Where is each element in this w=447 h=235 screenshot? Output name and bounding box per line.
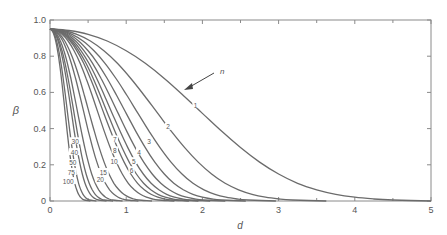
curve-label-n-3: 3 bbox=[147, 138, 151, 145]
x-tick-label: 2 bbox=[200, 205, 205, 215]
curve-label-n-50: 50 bbox=[69, 159, 77, 166]
curve-label-n-20: 20 bbox=[97, 176, 105, 183]
curve-label-n-40: 40 bbox=[71, 149, 79, 156]
arrow-head-icon bbox=[184, 83, 193, 90]
curve-label-n-7: 7 bbox=[113, 136, 117, 143]
curve-label-n-100: 100 bbox=[63, 178, 74, 185]
curve-label-n-1: 1 bbox=[194, 102, 198, 109]
curve-label-n-4: 4 bbox=[137, 149, 141, 156]
y-tick-label: 0.4 bbox=[33, 124, 46, 134]
y-tick-label: 0.2 bbox=[33, 160, 46, 170]
x-tick-label: 4 bbox=[352, 205, 357, 215]
curve-label-n-8: 8 bbox=[113, 147, 117, 154]
curve-label-n-6: 6 bbox=[130, 167, 134, 174]
x-axis-label: d bbox=[237, 220, 243, 231]
y-tick-label: 0.6 bbox=[33, 87, 46, 97]
curve-label-n-10: 10 bbox=[110, 158, 118, 165]
curve-label-n-15: 15 bbox=[100, 169, 108, 176]
y-tick-label: 0 bbox=[41, 196, 46, 206]
x-tick-label: 3 bbox=[276, 205, 281, 215]
curve-series bbox=[50, 29, 431, 201]
n-annotation-label: n bbox=[220, 67, 225, 76]
y-tick-label: 1.0 bbox=[33, 15, 46, 25]
curve-label-n-2: 2 bbox=[166, 123, 170, 130]
n-annotation: n bbox=[184, 67, 225, 90]
axis-ticks: 01234500.20.40.60.81.0 bbox=[33, 15, 433, 215]
chart-svg: 01234500.20.40.60.81.0 12345678101520304… bbox=[0, 0, 447, 235]
curve-label-n-30: 30 bbox=[72, 138, 80, 145]
y-axis-label: β bbox=[12, 104, 20, 116]
y-tick-label: 0.8 bbox=[33, 51, 46, 61]
x-tick-label: 5 bbox=[428, 205, 433, 215]
curve-label-n-5: 5 bbox=[132, 158, 136, 165]
curve-label-n-75: 75 bbox=[68, 169, 76, 176]
x-tick-label: 0 bbox=[47, 205, 52, 215]
x-tick-label: 1 bbox=[124, 205, 129, 215]
oc-curve-chart: 01234500.20.40.60.81.0 12345678101520304… bbox=[0, 0, 447, 235]
curve-n-1 bbox=[50, 29, 431, 201]
